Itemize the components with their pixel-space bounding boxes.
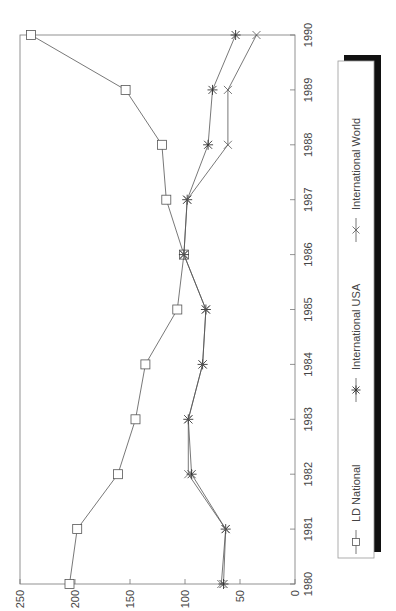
series-group bbox=[27, 30, 261, 589]
year-tick-label: 1981 bbox=[302, 517, 314, 541]
square-marker-shape bbox=[131, 415, 140, 424]
square-marker-shape bbox=[65, 580, 74, 589]
square-marker-shape bbox=[121, 85, 130, 94]
legend-label: International World bbox=[350, 118, 362, 210]
square-marker bbox=[113, 470, 122, 479]
series-line bbox=[184, 35, 257, 584]
series-line bbox=[31, 35, 184, 584]
year-tick-label: 1980 bbox=[302, 572, 314, 596]
year-tick-label: 1982 bbox=[302, 462, 314, 486]
line-chart: 250200150100500 198019811982198319841985… bbox=[0, 0, 396, 611]
square-marker bbox=[157, 140, 166, 149]
asterisk-marker bbox=[352, 386, 361, 395]
year-tick-label: 1988 bbox=[302, 133, 314, 157]
plot-border bbox=[20, 35, 295, 584]
legend: LD NationalInternational USAInternationa… bbox=[338, 55, 381, 558]
square-marker bbox=[27, 31, 36, 40]
square-marker bbox=[162, 195, 171, 204]
legend-label: LD National bbox=[350, 465, 362, 522]
year-tick-label: 1987 bbox=[302, 187, 314, 211]
square-marker-shape bbox=[113, 470, 122, 479]
square-marker bbox=[73, 525, 82, 534]
value-tick-label: 150 bbox=[124, 590, 136, 608]
square-marker-shape bbox=[141, 360, 150, 369]
asterisk-marker bbox=[208, 85, 218, 95]
asterisk-marker bbox=[219, 579, 229, 589]
square-marker-shape bbox=[173, 305, 182, 314]
year-tick-label: 1983 bbox=[302, 407, 314, 431]
square-marker bbox=[173, 305, 182, 314]
value-tick-label: 100 bbox=[179, 590, 191, 608]
asterisk-marker bbox=[231, 30, 241, 40]
value-tick-label: 0 bbox=[289, 590, 301, 596]
value-tick-label: 50 bbox=[234, 590, 246, 602]
plot-area bbox=[20, 35, 295, 584]
square-marker-shape bbox=[353, 539, 360, 546]
year-tick-label: 1985 bbox=[302, 297, 314, 321]
square-marker-shape bbox=[73, 525, 82, 534]
series-ld-national bbox=[27, 31, 189, 589]
square-marker bbox=[131, 415, 140, 424]
value-tick-label: 200 bbox=[69, 590, 81, 608]
year-tick-label: 1984 bbox=[302, 352, 314, 376]
square-marker bbox=[65, 580, 74, 589]
year-tick-label: 1990 bbox=[302, 23, 314, 47]
asterisk-marker bbox=[203, 140, 213, 150]
square-marker-shape bbox=[162, 195, 171, 204]
square-marker-shape bbox=[157, 140, 166, 149]
series-international-world bbox=[180, 31, 261, 588]
square-marker bbox=[353, 539, 360, 546]
square-marker bbox=[121, 85, 130, 94]
square-marker-shape bbox=[27, 31, 36, 40]
value-tick-label: 250 bbox=[14, 590, 26, 608]
square-marker bbox=[141, 360, 150, 369]
year-tick-label: 1986 bbox=[302, 242, 314, 266]
year-tick-label: 1989 bbox=[302, 78, 314, 102]
value-axis: 250200150100500 bbox=[14, 579, 301, 608]
legend-label: International USA bbox=[350, 283, 362, 370]
year-axis: 1980198119821983198419851986198719881989… bbox=[290, 23, 314, 596]
